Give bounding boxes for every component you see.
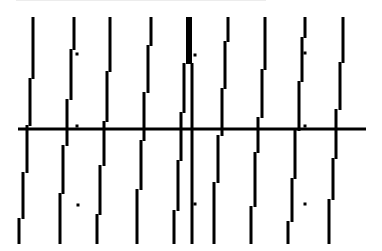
col-5-segment-2	[180, 112, 183, 161]
col-2-segment-2	[70, 49, 73, 100]
col-3-segment-4	[99, 165, 102, 215]
col-2-segment-4	[62, 145, 65, 194]
col-4-segment-4	[140, 140, 143, 190]
dot-5	[194, 203, 197, 206]
dot-4	[194, 54, 197, 57]
col-7-segment-4	[254, 152, 257, 207]
col-9-segment-1	[342, 17, 345, 63]
thick-block	[186, 17, 192, 64]
col-1-segment-3	[26, 125, 29, 173]
dot-1	[76, 53, 79, 56]
col-4-segment-5	[136, 189, 139, 244]
col-5-segment-1	[183, 63, 186, 113]
col-6-segment-2	[224, 41, 227, 89]
col-8-segment-5	[291, 178, 294, 222]
horizontal-line	[18, 128, 366, 131]
col-6-segment-5	[213, 182, 216, 244]
col-1-segment-2	[29, 78, 32, 126]
col-9-segment-4	[332, 158, 335, 200]
col-9-segment-2	[339, 62, 342, 110]
col-4-segment-2	[147, 45, 150, 93]
dot-2	[76, 125, 79, 128]
col-8-segment-2	[301, 37, 304, 82]
col-9-segment-3	[335, 109, 338, 159]
shear-pattern-graphic	[0, 0, 382, 251]
col-1-segment-1	[32, 17, 35, 79]
col-7-segment-1	[264, 17, 267, 70]
col-6-segment-1	[227, 17, 230, 42]
col-4-segment-1	[150, 17, 153, 46]
col-2-segment-3	[66, 99, 69, 146]
col-9-segment-5	[328, 199, 331, 244]
col-8-segment-1	[304, 17, 307, 38]
col-3-segment-1	[109, 17, 112, 72]
col-7-segment-2	[261, 69, 264, 118]
col-4-segment-3	[143, 92, 146, 141]
col-8-segment-3	[298, 81, 301, 131]
col-7-segment-3	[257, 117, 260, 153]
col-6-segment-4	[217, 135, 220, 183]
col-2-segment-5	[59, 193, 62, 244]
dot-6	[304, 52, 307, 55]
col-5b-segment-1	[191, 63, 194, 244]
col-5-segment-4	[173, 210, 176, 244]
col-5-segment-3	[177, 160, 180, 211]
col-3-segment-2	[106, 71, 109, 122]
dot-7	[304, 125, 307, 128]
dot-8	[304, 203, 307, 206]
col-7-segment-5	[250, 206, 253, 244]
col-8-segment-4	[294, 130, 297, 179]
dot-3	[77, 204, 80, 207]
col-8-segment-6	[287, 221, 290, 244]
col-1-segment-5	[18, 218, 21, 244]
col-3-segment-5	[96, 214, 99, 244]
col-2-segment-1	[73, 17, 76, 50]
pattern-canvas	[0, 0, 382, 251]
col-1-segment-4	[22, 172, 25, 219]
